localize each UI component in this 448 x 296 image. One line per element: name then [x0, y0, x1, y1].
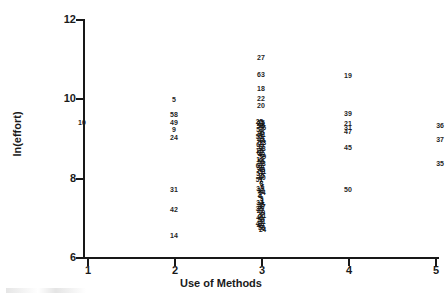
page-edge-artifact	[6, 288, 86, 293]
data-point-label: 14	[170, 232, 178, 239]
data-point-label: 49	[170, 119, 178, 126]
data-point-label: 45	[344, 143, 352, 150]
data-point-label: 35	[436, 159, 444, 166]
data-point-label: 36	[436, 121, 444, 128]
data-point-label: 24	[259, 227, 266, 233]
data-point-label: 63	[257, 70, 265, 77]
data-point-label: 18	[257, 84, 265, 91]
data-point-label: 58	[170, 111, 178, 118]
data-point-label: 50	[344, 185, 352, 192]
data-point-label: 22	[257, 94, 265, 101]
data-point-label: 27	[257, 53, 265, 60]
data-point-label: 10	[78, 119, 86, 126]
data-point-label: 9	[172, 126, 176, 133]
data-point-label: 47	[344, 127, 352, 134]
data-point-label: 31	[170, 185, 178, 192]
data-point-label: 39	[344, 110, 352, 117]
data-point-label: 24	[170, 134, 178, 141]
data-point-label: 20	[257, 102, 265, 109]
data-point-label: 37	[436, 135, 444, 142]
data-point-label: 42	[170, 205, 178, 212]
data-point-label: 5	[172, 96, 176, 103]
data-point-label: 19	[344, 71, 352, 78]
